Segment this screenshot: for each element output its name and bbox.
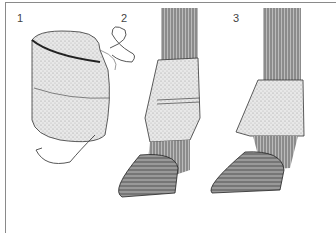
- folded-bandage-3: [236, 80, 304, 136]
- wrapped-bandage-2: [145, 58, 200, 142]
- leg-3: [263, 8, 301, 83]
- tie-string-upper: [110, 27, 135, 62]
- hoof-2: [119, 155, 178, 197]
- bandage-roll: [32, 31, 116, 142]
- hoof-3: [211, 152, 284, 193]
